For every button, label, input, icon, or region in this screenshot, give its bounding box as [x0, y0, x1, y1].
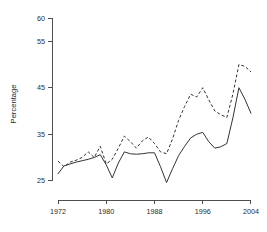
x-tick-label: 1996 [195, 207, 211, 216]
x-tick-label: 2004 [243, 207, 259, 216]
x-tick-label: 1988 [147, 207, 163, 216]
axes [48, 18, 251, 204]
x-tick-label: 1972 [50, 207, 66, 216]
y-tick-label: 25 [37, 176, 45, 185]
x-tick-label: 1980 [98, 207, 114, 216]
chart-container: 253545556019721980198819962004Percentage [0, 0, 267, 232]
y-tick-label: 35 [37, 130, 45, 139]
y-axis-title: Percentage [9, 85, 18, 124]
axis-labels: 253545556019721980198819962004Percentage [9, 14, 259, 216]
y-tick-label: 60 [37, 14, 45, 23]
line-chart: 253545556019721980198819962004Percentage [0, 0, 267, 232]
y-tick-label: 45 [37, 83, 45, 92]
series-line-dashed-series [58, 64, 251, 166]
y-tick-label: 55 [37, 37, 45, 46]
series-line-solid-series [58, 88, 251, 183]
data-series [58, 64, 251, 182]
